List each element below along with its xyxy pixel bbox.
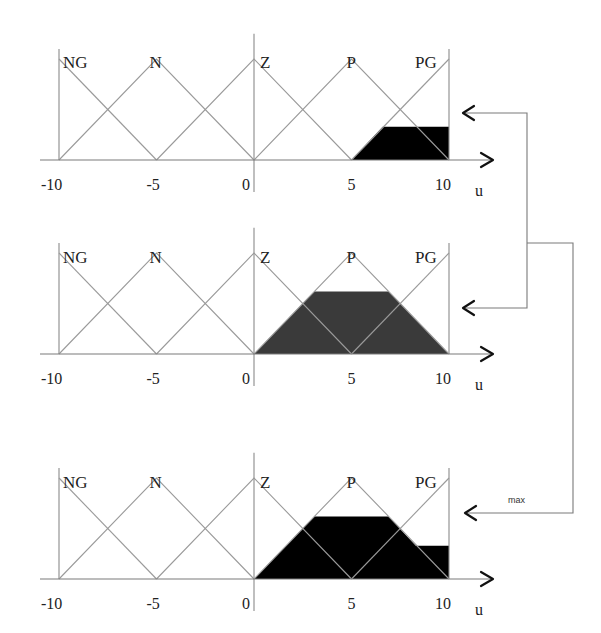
- set-label-ng: NG: [63, 53, 88, 72]
- membership-n: [59, 253, 254, 354]
- fuzzy-aggregation-diagram: NGNZPPG-10-50510uNGNZPPG-10-50510uNGNZPP…: [0, 0, 601, 633]
- tick-label: 0: [242, 176, 250, 193]
- membership-n: [59, 478, 254, 579]
- set-label-z: Z: [260, 53, 270, 72]
- set-label-p: P: [347, 248, 356, 267]
- axis-label-u: u: [475, 182, 483, 199]
- tick-label: -10: [41, 595, 62, 612]
- tick-label: 0: [242, 370, 250, 387]
- tick-label: 5: [348, 595, 356, 612]
- set-label-z: Z: [260, 473, 270, 492]
- set-label-ng: NG: [63, 473, 88, 492]
- max-label: max: [508, 495, 526, 505]
- set-label-p: P: [347, 473, 356, 492]
- membership-n: [59, 59, 254, 160]
- set-label-pg: PG: [415, 248, 437, 267]
- panel-2: NGNZPPG-10-50510u: [40, 228, 493, 393]
- tick-label: 5: [348, 370, 356, 387]
- tick-label: -5: [147, 595, 160, 612]
- tick-label: 10: [435, 370, 451, 387]
- set-label-pg: PG: [415, 53, 437, 72]
- tick-label: 0: [242, 595, 250, 612]
- tick-label: -10: [41, 370, 62, 387]
- set-label-n: N: [150, 248, 162, 267]
- set-label-z: Z: [260, 248, 270, 267]
- set-label-n: N: [150, 53, 162, 72]
- tick-label: 10: [435, 176, 451, 193]
- output-area: [352, 127, 450, 160]
- set-label-n: N: [150, 473, 162, 492]
- set-label-ng: NG: [63, 248, 88, 267]
- axis-label-u: u: [475, 601, 483, 618]
- connector-top-middle: [462, 106, 527, 315]
- panel-3: NGNZPPG-10-50510u: [40, 453, 493, 618]
- output-area: [254, 291, 449, 354]
- tick-label: -5: [147, 370, 160, 387]
- panel-1: NGNZPPG-10-50510u: [40, 34, 493, 199]
- axis-label-u: u: [475, 376, 483, 393]
- output-area: [254, 516, 449, 579]
- set-label-p: P: [347, 53, 356, 72]
- tick-label: 5: [348, 176, 356, 193]
- tick-label: 10: [435, 595, 451, 612]
- set-label-pg: PG: [415, 473, 437, 492]
- tick-label: -10: [41, 176, 62, 193]
- tick-label: -5: [147, 176, 160, 193]
